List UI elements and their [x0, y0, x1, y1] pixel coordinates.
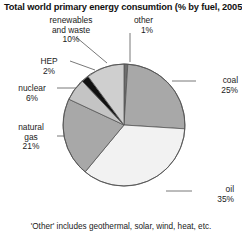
pie-label-nuclear: nuclear 6% — [6, 84, 58, 103]
pie-label-renewables-value: 10% — [38, 35, 104, 45]
pie-label-natural-gas-value: 21% — [4, 142, 58, 152]
pie-slices — [63, 64, 185, 186]
pie-slice-coal[interactable] — [124, 64, 185, 129]
pie-label-oil: oil 35% — [192, 185, 234, 204]
pie-label-hep-value: 2% — [28, 67, 70, 77]
pie-label-other-value: 1% — [119, 26, 153, 36]
pie-label-renewables: renewables and waste 10% — [38, 16, 104, 45]
pie-label-hep: HEP 2% — [28, 57, 70, 76]
pie-label-coal: coal 25% — [196, 76, 238, 95]
pie-label-coal-value: 25% — [196, 86, 238, 96]
leader-line-hep — [70, 61, 95, 70]
pie-label-other: other 1% — [119, 16, 153, 35]
chart-figure: Total world primary energy consumtion (%… — [0, 0, 242, 245]
pie-label-natural-gas: natural gas 21% — [4, 123, 58, 152]
chart-footnote: 'Other' includes geothermal, solar, wind… — [0, 222, 242, 231]
pie-label-oil-value: 35% — [192, 195, 234, 205]
pie-label-nuclear-value: 6% — [6, 94, 58, 104]
